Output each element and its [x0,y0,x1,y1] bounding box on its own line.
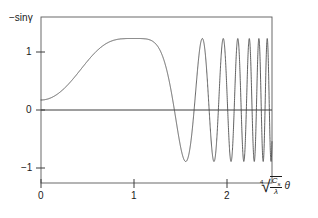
x-axis-ticks [41,179,227,188]
y-axis-title: −sinγ [9,13,33,23]
ctf-figure: 1 0 −1 0 1 2 −sinγ 4√Csλθ [0,0,318,218]
x-axis-title: 4√Csλθ [258,176,290,196]
gamma-symbol: γ [28,12,33,23]
y-tick-label-0: 0 [26,105,32,115]
x-tick-label-0: 0 [38,191,44,201]
y-tick-label-1: 1 [26,47,32,57]
y-tick-label-minus1: −1 [21,163,32,173]
x-tick-label-2: 2 [224,191,230,201]
x-tick-label-1: 1 [131,191,137,201]
radical-sign-icon: √ [261,178,270,195]
radicand: Csλ [270,176,283,196]
y-axis-title-prefix: −sin [9,12,28,23]
y-axis-ticks [36,52,45,168]
fraction: Csλ [270,177,283,196]
ctf-curve [41,39,272,162]
cs-subscript: s [277,181,280,187]
theta-symbol: θ [284,181,289,191]
fraction-denominator: λ [270,188,283,196]
